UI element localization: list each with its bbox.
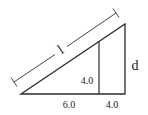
triangle-diagram: l 4.0 6.0 4.0 d <box>0 0 148 115</box>
diagram-canvas: l 4.0 6.0 4.0 d <box>0 0 148 115</box>
base-left-label: 6.0 <box>63 99 76 110</box>
hypotenuse-label: l <box>55 42 67 57</box>
outer-height-label: d <box>132 58 139 73</box>
dimension-tick-left <box>11 78 17 87</box>
inner-height-label: 4.0 <box>81 75 94 86</box>
hypotenuse-dimension-line <box>11 9 119 87</box>
outer-triangle <box>21 24 125 94</box>
base-right-label: 4.0 <box>106 99 119 110</box>
dimension-tick-right <box>113 9 119 18</box>
